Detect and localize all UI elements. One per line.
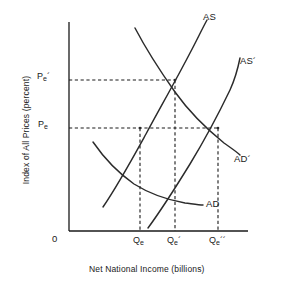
- chart-canvas: [0, 0, 294, 286]
- curve-as: [103, 20, 207, 207]
- curve-label-ad-prime: AD´: [234, 154, 251, 164]
- guide-lines-group: [69, 80, 219, 231]
- x-tick-qe-dprime-mark: ´´: [220, 235, 225, 245]
- curve-ad-prime: [135, 28, 240, 155]
- x-tick-label-qe-double-prime: Qe´´: [209, 236, 226, 246]
- ad-as-chart: AS AS´ AD AD´ Pe´ Pe Qe Qe´ Qe´´ 0 Net N…: [0, 0, 294, 286]
- y-tick-pe-sub: e: [44, 123, 48, 130]
- curve-label-as: AS: [203, 12, 216, 22]
- curve-label-as-prime: AS´: [240, 56, 256, 66]
- x-tick-label-qe: Qe: [133, 236, 144, 246]
- curve-label-ad: AD: [206, 199, 219, 209]
- equilibrium-point-e: [139, 127, 142, 130]
- x-tick-label-qe-prime: Qe´: [167, 236, 181, 246]
- equilibrium-points-group: [139, 79, 220, 130]
- y-tick-pe-prime-mark: ´: [47, 71, 50, 81]
- equilibrium-point-e-prime: [174, 79, 177, 82]
- x-tick-qe-prime-mark: ´: [178, 235, 181, 245]
- y-tick-label-pe-prime: Pe´: [37, 72, 50, 82]
- axes-group: [69, 22, 248, 231]
- y-tick-label-pe: Pe: [38, 120, 48, 130]
- equilibrium-point-e-double-prime: [217, 127, 220, 130]
- y-axis-title: Index of All Prices (percent): [21, 76, 31, 184]
- origin-label: 0: [52, 234, 57, 244]
- y-axis-title-wrapper: Index of All Prices (percent): [15, 30, 33, 230]
- curve-as-prime: [148, 58, 240, 228]
- curves-group: [93, 20, 240, 228]
- curve-ad: [93, 142, 203, 205]
- x-axis-title: Net National Income (billions): [89, 265, 205, 274]
- x-tick-qe-sub: e: [140, 239, 144, 246]
